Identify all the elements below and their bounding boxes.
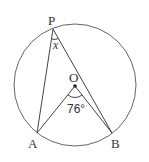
segment-PA bbox=[37, 29, 53, 133]
label-O: O bbox=[69, 70, 78, 85]
angle-label-x: x bbox=[52, 38, 59, 52]
segment-PB bbox=[53, 29, 112, 133]
central-angle-arc bbox=[68, 95, 82, 98]
diagram-canvas: P O A B 76° x bbox=[0, 0, 149, 162]
label-A: A bbox=[28, 136, 38, 151]
angle-label-76: 76° bbox=[67, 102, 85, 116]
label-P: P bbox=[48, 13, 55, 28]
label-B: B bbox=[111, 136, 120, 151]
